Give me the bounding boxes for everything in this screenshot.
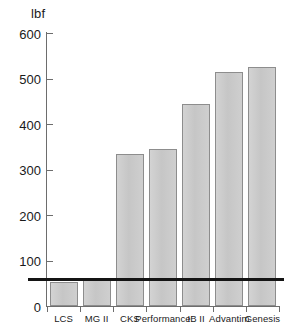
y-axis-tick-label: 600 <box>19 27 41 40</box>
threshold-reference-line <box>28 278 284 281</box>
x-axis-tick-mark <box>279 306 280 312</box>
bar <box>149 149 177 306</box>
x-axis-category-label: LCS <box>54 314 73 324</box>
x-axis-category-label: Performance <box>135 314 190 324</box>
x-axis-category-label: MG II <box>85 314 109 324</box>
x-axis-tick-mark <box>113 306 114 312</box>
bar <box>83 278 111 306</box>
y-axis-tick-label: 500 <box>19 73 41 86</box>
x-axis-category-label: Advantim <box>209 314 249 324</box>
y-axis-tick-label: 0 <box>34 300 41 313</box>
y-axis-tick-label: 200 <box>19 209 41 222</box>
x-axis-tick-mark <box>47 306 48 312</box>
y-axis-tick-label: 300 <box>19 164 41 177</box>
bar <box>215 72 243 306</box>
x-axis-tick-mark <box>246 306 247 312</box>
bar <box>116 154 144 306</box>
x-axis-category-label: IB II <box>187 314 204 324</box>
x-axis-tick-mark <box>180 306 181 312</box>
bar <box>248 67 276 306</box>
bar <box>182 104 210 306</box>
y-axis-unit-label: lbf <box>31 6 45 21</box>
y-axis-tick-label: 100 <box>19 255 41 268</box>
bar-chart: lbf 0100200300400500600 LCSMG IICKSPerfo… <box>0 0 284 332</box>
bar <box>50 282 78 306</box>
x-axis-tick-mark <box>80 306 81 312</box>
plot-area <box>47 33 279 306</box>
y-axis-tick-label: 400 <box>19 118 41 131</box>
x-axis-category-label: Genesis <box>245 314 281 324</box>
x-axis-tick-mark <box>213 306 214 312</box>
x-axis-tick-mark <box>146 306 147 312</box>
